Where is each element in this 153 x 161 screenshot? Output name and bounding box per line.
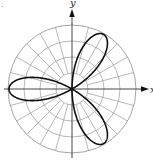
grid-spoke <box>55 27 67 73</box>
grid-spoke <box>10 93 56 105</box>
grid-spoke <box>55 104 67 150</box>
grid-spoke <box>10 72 56 84</box>
polar-rose-chart: y x . <box>0 0 153 161</box>
grid-spoke <box>87 93 133 105</box>
grid-spoke <box>76 27 88 73</box>
y-axis-arrow-icon <box>69 9 74 17</box>
grid-spoke <box>76 104 88 150</box>
y-axis-label: y <box>69 0 76 8</box>
x-axis-label: x <box>150 84 153 95</box>
corner-mark: . <box>1 0 4 9</box>
x-axis-arrow-icon <box>141 86 149 91</box>
grid-spoke <box>87 72 133 84</box>
axes <box>4 9 149 158</box>
